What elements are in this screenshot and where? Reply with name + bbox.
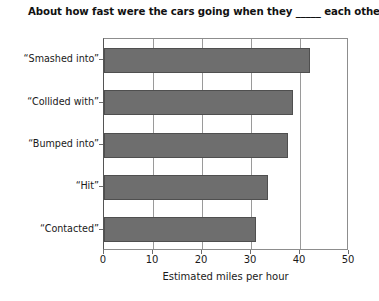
x-tick-label: 10	[132, 254, 172, 265]
y-axis-label: “Hit”	[0, 180, 99, 191]
bar	[104, 175, 268, 200]
y-axis-label: “Contacted”	[0, 223, 99, 234]
x-tick-label: 20	[181, 254, 221, 265]
y-axis-label: “Bumped into”	[0, 138, 99, 149]
chart-title: About how fast were the cars going when …	[28, 6, 373, 17]
x-tick-label: 30	[230, 254, 270, 265]
bars-layer	[104, 39, 347, 249]
x-tick-label: 40	[279, 254, 319, 265]
y-axis-label: “Smashed into”	[0, 53, 99, 64]
y-axis-category-labels: “Smashed into”“Collided with”“Bumped int…	[0, 38, 99, 250]
bar	[104, 90, 293, 115]
y-axis-label: “Collided with”	[0, 96, 99, 107]
x-tick-label: 50	[328, 254, 368, 265]
bar-chart-figure: About how fast were the cars going when …	[0, 0, 379, 301]
bar	[104, 217, 256, 242]
x-axis-title: Estimated miles per hour	[103, 271, 348, 282]
x-tick-label: 0	[83, 254, 123, 265]
bar	[104, 48, 310, 73]
bar	[104, 133, 288, 158]
plot-area	[103, 38, 348, 250]
x-axis-tick-labels: 01020304050	[103, 254, 348, 268]
